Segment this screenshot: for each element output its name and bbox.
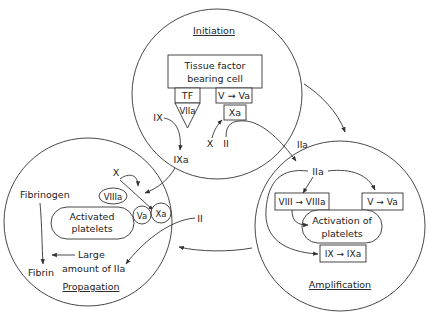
amp-iia-label: IIa xyxy=(312,166,323,177)
viii-to-viiia-label: VIII → VIIIa xyxy=(278,197,325,207)
ii-prop-label: II xyxy=(197,213,203,224)
xa-prop-label: Xa xyxy=(155,209,166,219)
cell-label-line2: bearing cell xyxy=(187,73,243,84)
x-loop-arrow xyxy=(120,175,138,186)
xa-label: Xa xyxy=(229,107,241,118)
ix-label: IX xyxy=(153,112,163,123)
activation-line1: Activation of xyxy=(312,215,372,226)
initiation-to-amplification-arrow xyxy=(304,84,345,132)
fibrinogen-to-fibrin-arrow xyxy=(40,203,43,264)
cell-label-line1: Tissue factor xyxy=(184,60,246,71)
ix-to-ixa-label: IX → IXa xyxy=(325,249,361,259)
x-to-xa-arrow xyxy=(212,120,222,138)
iia-transfer-label: IIa xyxy=(297,140,308,150)
amplification-title: Amplification xyxy=(309,279,371,290)
activated-platelets-line1: Activated xyxy=(70,211,115,222)
ix-to-ixa-arrow xyxy=(164,118,180,150)
v-to-va-label: V → Va xyxy=(218,90,250,101)
x-label: X xyxy=(207,138,214,149)
fibrinogen-label: Fibrinogen xyxy=(20,189,70,200)
fibrin-label: Fibrin xyxy=(28,267,54,278)
activated-platelets-line2: platelets xyxy=(71,223,112,234)
ii-label: II xyxy=(223,138,229,149)
initiation-title: Initiation xyxy=(193,25,235,36)
ixa-to-propagation-arrow xyxy=(145,168,175,193)
viia-label: VIIa xyxy=(179,106,195,116)
propagation-title: Propagation xyxy=(63,281,120,292)
ii-to-iia-prop-arrow xyxy=(126,218,195,264)
ii-to-iia-arrow xyxy=(226,121,296,161)
v-to-va-amp-label: V → Va xyxy=(367,197,397,207)
large-amount-line1: Large xyxy=(78,249,105,260)
prop-x-label: X xyxy=(113,167,120,178)
tf-label: TF xyxy=(181,90,193,101)
va-label: Va xyxy=(137,211,147,221)
viiia-label: VIIIa xyxy=(104,192,123,202)
amplification-to-propagation-arrow xyxy=(179,247,252,251)
ixa-label: IXa xyxy=(173,154,188,165)
activation-line2: platelets xyxy=(321,228,362,239)
coagulation-cascade-diagram: Initiation Tissue factor bearing cell TF… xyxy=(0,0,429,320)
iia-to-v-arrow xyxy=(328,170,375,190)
amplification-phase: IIa VIII → VIIIa V → Va Activation of pl… xyxy=(255,141,425,311)
iia-to-viii-arrow xyxy=(303,177,313,193)
initiation-phase: Initiation Tissue factor bearing cell TF… xyxy=(132,9,308,179)
large-amount-line2: amount of IIa xyxy=(62,263,125,274)
